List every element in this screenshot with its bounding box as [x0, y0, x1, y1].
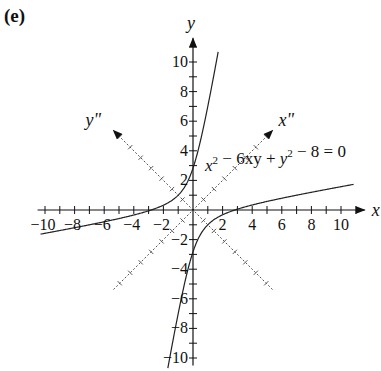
y-tick-label: −4 [171, 260, 188, 277]
x-tick-label: 4 [248, 216, 256, 233]
x-axis-label: x [371, 200, 380, 220]
y-tick-label: −8 [171, 319, 188, 336]
y-tick-label: 6 [180, 112, 188, 129]
x-tick-label: 10 [333, 216, 349, 233]
y-tick-label: 8 [180, 83, 188, 100]
x-prime-label: x" [278, 110, 295, 130]
y-tick-label: 2 [180, 171, 188, 188]
hyperbola-branch-1 [41, 52, 219, 234]
x-tick-label: 2 [219, 216, 227, 233]
x-tick-label: 6 [278, 216, 286, 233]
x-tick-label: −10 [30, 216, 55, 233]
x-tick-label: −8 [64, 216, 81, 233]
coordinate-axes [38, 38, 365, 365]
y-axis-label: y [185, 13, 195, 33]
y-tick-label: 10 [172, 53, 188, 70]
y-tick-label: −6 [171, 290, 188, 307]
x-tick-label: −4 [123, 216, 140, 233]
x-tick-label: 8 [307, 216, 315, 233]
y-tick-label: −2 [171, 231, 188, 248]
x-tick-label: −6 [94, 216, 111, 233]
y-tick-label: −10 [163, 349, 188, 366]
y-prime-label: y" [83, 110, 101, 130]
x-tick-label: −2 [153, 216, 170, 233]
y-tick-label: 4 [180, 142, 188, 159]
hyperbola-plot: −10−8−6−4−2246810108642−2−4−6−8−10xyx"y"… [0, 0, 381, 371]
equation-label: x2 − 6xy + y2 − 8 = 0 [204, 142, 346, 175]
